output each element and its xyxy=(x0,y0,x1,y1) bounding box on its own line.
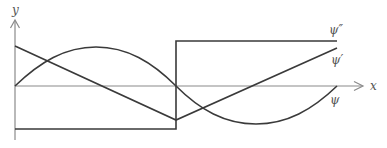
psi-double-prime-label: ψ″ xyxy=(329,23,343,37)
wavefunction-derivatives-plot: y x ψ″ ψ′ ψ xyxy=(0,0,387,148)
psi-label: ψ xyxy=(330,93,340,107)
y-axis-label: y xyxy=(11,3,19,17)
diagram-canvas: y x ψ″ ψ′ ψ xyxy=(0,0,387,148)
psi-prime-label: ψ′ xyxy=(331,53,343,67)
x-axis-label: x xyxy=(370,79,377,93)
